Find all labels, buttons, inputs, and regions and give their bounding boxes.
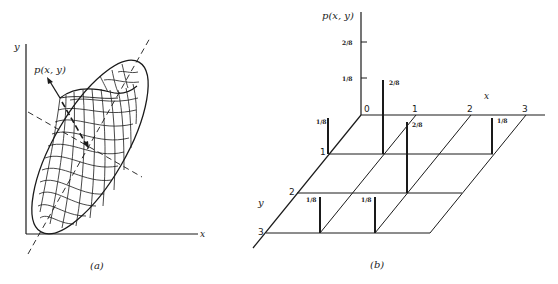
bar-label-x2-y1: 2/8 xyxy=(412,121,423,128)
bar-label-x1-y0: 2/8 xyxy=(389,79,400,86)
grid-col-1 xyxy=(320,115,416,233)
surface-ridge-2 xyxy=(60,97,118,99)
arrowhead-icon xyxy=(47,77,53,84)
y-tick-2: 2 xyxy=(289,187,295,197)
bar-label-x0-y3: 1/8 xyxy=(306,196,317,203)
figure: y x p(x, y) (a) p(x, y) 2/8 1/8 0 1 2 3 … xyxy=(0,0,558,284)
z-tick-label-2-8: 2/8 xyxy=(342,39,353,46)
caption-a: (a) xyxy=(90,260,104,271)
grid-col-3 xyxy=(430,115,526,233)
y-label-b: y xyxy=(257,197,264,208)
x-label-a: x xyxy=(200,229,205,239)
z-label: p(x, y) xyxy=(322,10,354,21)
x-tick-1: 1 xyxy=(412,104,418,114)
density-label-a: p(x, y) xyxy=(34,64,66,75)
bar-label-x3-y1: 1/8 xyxy=(497,117,508,124)
x-label-b: x xyxy=(484,91,489,101)
origin-label: 0 xyxy=(364,104,370,114)
y-tick-3: 3 xyxy=(258,227,264,237)
bar-label-x1-y3: 1/8 xyxy=(361,196,372,203)
panel-b xyxy=(253,12,545,248)
x-tick-3: 3 xyxy=(522,104,528,114)
y-label-a: y xyxy=(13,41,20,52)
z-tick-label-1-8: 1/8 xyxy=(342,75,353,82)
y-tick-1: 1 xyxy=(320,147,326,157)
y-axis-b xyxy=(253,115,361,248)
bar-label-x0-y1: 1/8 xyxy=(316,118,327,125)
surface-ridge xyxy=(60,86,137,98)
grid-col-2 xyxy=(375,115,471,233)
x-tick-2: 2 xyxy=(467,104,473,114)
caption-b: (b) xyxy=(370,259,384,270)
